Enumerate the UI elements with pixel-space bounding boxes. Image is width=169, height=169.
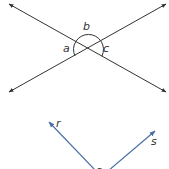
diagram-canvas: a b c r s a	[0, 0, 169, 169]
intersecting-lines-figure: a b c	[9, 4, 166, 92]
label-vertex: a	[96, 164, 103, 169]
ray-s	[108, 131, 155, 169]
label-r: r	[56, 117, 62, 130]
label-a: a	[63, 42, 70, 55]
label-c: c	[103, 42, 109, 55]
angle-rays-figure: r s a	[49, 117, 157, 169]
label-s: s	[151, 135, 157, 148]
label-b: b	[83, 20, 90, 33]
